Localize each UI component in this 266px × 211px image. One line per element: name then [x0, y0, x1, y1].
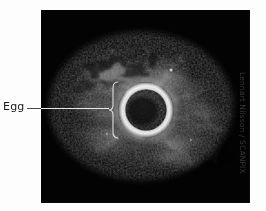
photomicrograph-plate [41, 10, 250, 203]
photomicrograph-image [41, 10, 250, 203]
egg-cell [41, 10, 250, 203]
leader-line-segment [27, 108, 41, 109]
label-egg: Egg [3, 100, 25, 113]
figure-root: Egg Lennart Nilsson / SCANPIX [0, 0, 266, 211]
photo-credit: Lennart Nilsson / SCANPIX [238, 72, 247, 211]
